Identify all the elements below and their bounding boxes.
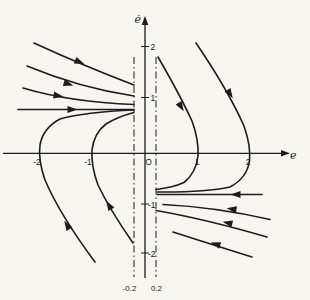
trajectory-layer <box>18 43 270 262</box>
left-lower-inner-trajectory <box>92 113 134 244</box>
right-upper-outer-trajectory <box>157 43 250 192</box>
x-axis-arrow-icon <box>281 150 290 157</box>
left-lower-outer-trajectory <box>40 110 134 262</box>
y-tick-label-plus1: 1 <box>151 93 156 103</box>
y-axis-label: ė <box>134 13 141 26</box>
y-axis-arrow-icon <box>142 16 149 25</box>
left-asymptote-line-arrow-icon <box>68 106 78 113</box>
x-tick-label-plus2: 2 <box>246 157 251 167</box>
left-upper-trajectory-3 <box>23 88 134 105</box>
left-upper-trajectory-3-arrow-icon <box>53 92 64 101</box>
x-tick-label-plus1: 1 <box>195 157 200 167</box>
x-axis-label: e <box>290 149 297 162</box>
deadzone-right-label: 0.2 <box>151 284 163 293</box>
phase-plane-canvas: ė e O -2 -1 1 2 2 1 -1 -2 -0.2 0.2 <box>0 0 310 300</box>
right-upper-inner-trajectory <box>156 57 198 190</box>
right-asymptote-line-arrow-icon <box>231 191 241 198</box>
deadzone-left-label: -0.2 <box>123 284 137 293</box>
origin-label: O <box>145 157 152 167</box>
y-tick-label-minus1: -1 <box>148 200 156 210</box>
right-lower-trajectory-1 <box>163 205 270 220</box>
phase-portrait-figure: ė e O -2 -1 1 2 2 1 -1 -2 -0.2 0.2 <box>0 0 310 300</box>
left-lower-inner-trajectory-arrow-icon <box>103 199 114 211</box>
x-tick-label-minus1: -1 <box>84 157 92 167</box>
right-lower-trajectory-2 <box>156 211 267 238</box>
left-upper-trajectory-2 <box>27 66 134 96</box>
x-tick-label-minus2: -2 <box>33 157 41 167</box>
right-lower-trajectory-3 <box>173 232 252 257</box>
y-tick-label-plus2: 2 <box>151 42 156 52</box>
y-tick-label-minus2: -2 <box>148 249 156 259</box>
